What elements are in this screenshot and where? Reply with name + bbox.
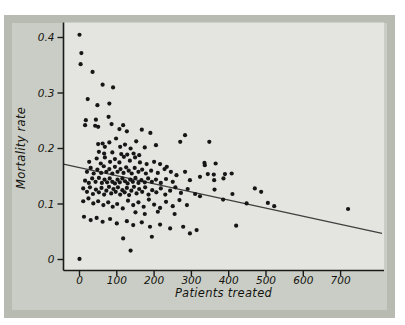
data-point (85, 170, 89, 174)
data-point (159, 186, 163, 190)
data-point (115, 221, 119, 225)
data-point (188, 231, 192, 235)
data-point (82, 215, 86, 219)
data-point (137, 153, 141, 157)
data-point (143, 145, 147, 149)
data-point (133, 210, 137, 214)
data-point (87, 160, 91, 164)
data-point (79, 62, 83, 66)
data-point (118, 167, 122, 171)
data-point (126, 181, 130, 185)
data-point (133, 155, 137, 159)
data-point (245, 201, 249, 205)
x-tick-label: 300 (181, 274, 201, 286)
data-point (266, 201, 270, 205)
data-point (86, 196, 90, 200)
data-point (230, 171, 234, 175)
data-point (91, 201, 95, 205)
data-point (93, 124, 97, 128)
data-point (186, 187, 190, 191)
data-point (94, 118, 98, 122)
data-point (134, 139, 138, 143)
data-point (272, 204, 276, 208)
data-point (111, 85, 115, 89)
data-point (152, 202, 156, 206)
data-point (90, 176, 94, 180)
data-point (115, 202, 119, 206)
data-point (108, 176, 112, 180)
data-point (148, 225, 152, 229)
data-point (253, 186, 257, 190)
data-point (121, 171, 125, 175)
data-point (109, 191, 113, 195)
x-tick-label: 600 (293, 274, 313, 286)
data-point (212, 187, 216, 191)
data-point (198, 194, 202, 198)
data-point (121, 236, 125, 240)
data-point (133, 166, 137, 170)
x-tick-label: 400 (219, 274, 239, 286)
data-point (156, 210, 160, 214)
data-point (158, 206, 162, 210)
data-point (107, 140, 111, 144)
x-tick-label: 100 (107, 274, 127, 286)
data-point (125, 186, 129, 190)
data-point (154, 143, 158, 147)
data-point (198, 175, 202, 179)
data-point (104, 189, 108, 193)
data-point (203, 163, 207, 167)
data-point (223, 172, 227, 176)
data-point (99, 171, 103, 175)
data-point (93, 180, 97, 184)
data-point (146, 176, 150, 180)
data-point (193, 192, 197, 196)
data-point (96, 199, 100, 203)
data-point (122, 155, 126, 159)
data-point (118, 192, 122, 196)
data-point (111, 205, 115, 209)
data-point (77, 257, 81, 261)
y-tick-label: 0.4 (38, 31, 55, 43)
data-point (142, 205, 146, 209)
data-point (173, 212, 177, 216)
data-point (129, 189, 133, 193)
data-point (114, 190, 118, 194)
data-point (143, 185, 147, 189)
data-point (206, 172, 210, 176)
data-point (148, 131, 152, 135)
page: 010020030040050060070000.10.20.30.4 Pati… (0, 0, 405, 325)
x-tick-label: 200 (144, 274, 164, 286)
data-point (143, 180, 147, 184)
data-point (87, 181, 91, 185)
data-point (163, 192, 167, 196)
data-point (102, 192, 106, 196)
data-point (346, 207, 350, 211)
plot-area (64, 23, 385, 271)
data-point (169, 170, 173, 174)
data-point (145, 162, 149, 166)
data-point (108, 217, 112, 221)
data-point (149, 169, 153, 173)
data-point (152, 160, 156, 164)
data-point (83, 123, 87, 127)
data-point (89, 218, 93, 222)
data-point (123, 190, 127, 194)
data-point (95, 103, 99, 107)
data-point (158, 222, 162, 226)
data-point (110, 150, 114, 154)
data-point (140, 220, 144, 224)
data-point (85, 190, 89, 194)
data-point (134, 191, 138, 195)
data-point (99, 186, 103, 190)
data-point (108, 160, 112, 164)
data-point (103, 145, 107, 149)
data-point (181, 225, 185, 229)
y-tick-label: 0.1 (38, 198, 55, 210)
data-point (214, 161, 218, 165)
data-point (79, 51, 83, 55)
data-point (100, 181, 104, 185)
data-point (136, 200, 140, 204)
data-point (107, 167, 111, 171)
data-point (207, 140, 211, 144)
data-point (97, 150, 101, 154)
